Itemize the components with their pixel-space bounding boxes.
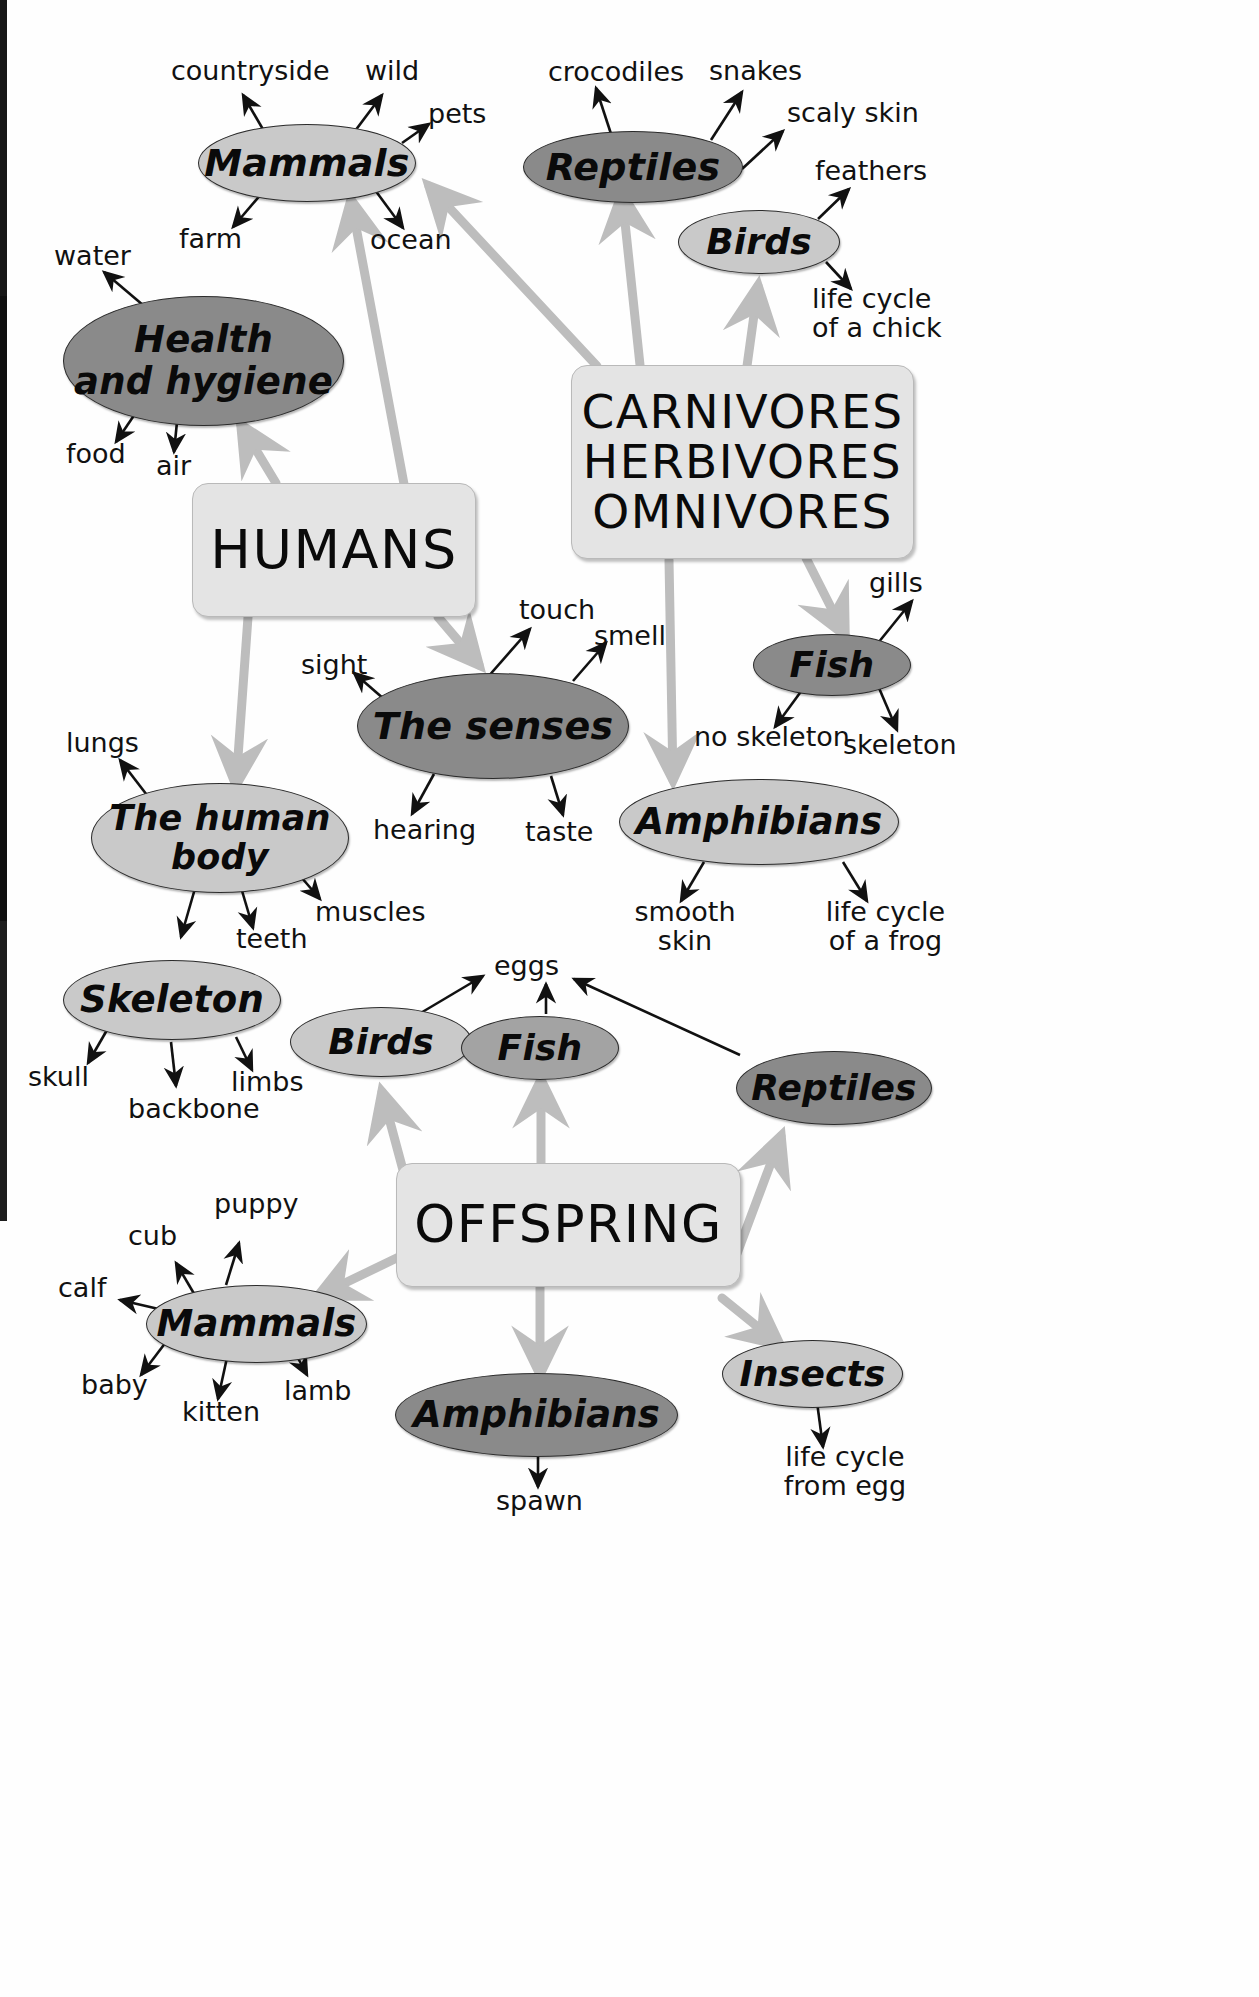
leaf-ocean: ocean	[370, 226, 452, 255]
node-birds-bottom[interactable]: Birds	[290, 1007, 472, 1077]
node-fish-top-label: Fish	[790, 647, 875, 684]
node-birds-bottom-label: Birds	[328, 1024, 434, 1061]
leaf-air: air	[156, 452, 191, 481]
page-edge-mark-lower	[0, 921, 7, 1221]
leaf-crocodiles: crocodiles	[548, 58, 684, 87]
leaf-pets: pets	[428, 100, 486, 129]
leaf-life-cycle-of-a-frog: life cycle of a frog	[818, 898, 953, 955]
node-the-senses-label: The senses	[373, 707, 613, 746]
hub-diets-line-omnivores: OMNIVORES	[592, 488, 893, 536]
node-human-body-line2: body	[171, 840, 269, 876]
node-birds-top[interactable]: Birds	[678, 210, 840, 274]
node-health-line1: Health	[134, 321, 273, 359]
hub-offspring[interactable]: OFFSPRING	[396, 1163, 741, 1287]
leaf-puppy: puppy	[214, 1190, 299, 1219]
leaf-lungs: lungs	[66, 729, 139, 758]
hub-humans[interactable]: HUMANS	[192, 483, 476, 617]
hub-humans-label: HUMANS	[210, 522, 457, 577]
leaf-lamb: lamb	[284, 1377, 352, 1406]
leaf-kitten: kitten	[182, 1398, 260, 1427]
leaf-baby: baby	[81, 1371, 148, 1400]
node-the-senses[interactable]: The senses	[357, 673, 629, 779]
leaf-backbone: backbone	[128, 1095, 260, 1124]
leaf-snakes: snakes	[709, 57, 802, 86]
leaf-smooth-skin-line1: smooth	[634, 896, 735, 927]
node-fish-bottom-label: Fish	[498, 1030, 583, 1067]
node-skeleton[interactable]: Skeleton	[63, 960, 281, 1040]
node-skeleton-label: Skeleton	[80, 981, 264, 1019]
leaf-food: food	[66, 440, 126, 469]
leaf-life-cycle-egg-line1: life cycle	[785, 1441, 904, 1472]
node-mammals-top-label: Mammals	[204, 144, 409, 183]
hub-diets-line-carnivores: CARNIVORES	[581, 388, 903, 436]
node-reptiles-bottom-label: Reptiles	[751, 1070, 916, 1107]
leaf-wild: wild	[365, 57, 419, 86]
leaf-life-cycle-frog-line1: life cycle	[826, 896, 945, 927]
leaf-smell: smell	[594, 622, 666, 651]
leaf-countryside: countryside	[171, 57, 330, 86]
concept-map-canvas: HUMANS CARNIVORES HERBIVORES OMNIVORES O…	[0, 0, 1259, 1997]
leaf-smooth-skin: smooth skin	[625, 898, 745, 955]
leaf-life-cycle-frog-line2: of a frog	[829, 925, 942, 956]
node-mammals-bottom-label: Mammals	[157, 1305, 357, 1343]
leaf-eggs: eggs	[494, 952, 559, 981]
leaf-water: water	[54, 242, 131, 271]
leaf-farm: farm	[179, 225, 242, 254]
leaf-teeth: teeth	[236, 925, 308, 954]
node-health-hygiene[interactable]: Health and hygiene	[63, 296, 344, 426]
leaf-taste: taste	[525, 818, 593, 847]
node-insects-bottom[interactable]: Insects	[722, 1340, 903, 1408]
node-reptiles-bottom[interactable]: Reptiles	[736, 1051, 932, 1125]
leaf-no-skeleton: no skeleton	[694, 723, 850, 752]
page-edge-mark-top	[0, 0, 7, 296]
node-amphibians-top-label: Amphibians	[635, 803, 882, 841]
leaf-feathers: feathers	[815, 157, 927, 186]
node-health-line2: and hygiene	[74, 363, 333, 401]
leaf-calf: calf	[58, 1274, 106, 1303]
node-reptiles-top[interactable]: Reptiles	[523, 131, 743, 203]
page-edge-mark-mid	[0, 296, 7, 921]
leaf-skull: skull	[28, 1063, 89, 1092]
leaf-smooth-skin-line2: skin	[658, 925, 712, 956]
node-amphibians-bottom-label: Amphibians	[413, 1396, 660, 1434]
leaf-skeleton: skeleton	[843, 731, 957, 760]
node-insects-bottom-label: Insects	[739, 1356, 885, 1393]
leaf-touch: touch	[519, 596, 595, 625]
node-birds-top-label: Birds	[706, 224, 812, 261]
leaf-life-cycle-chick-line1: life cycle	[812, 283, 931, 314]
leaf-gills: gills	[869, 569, 923, 598]
leaf-scaly-skin: scaly skin	[787, 99, 919, 128]
leaf-spawn: spawn	[496, 1487, 583, 1516]
hub-diets-line-herbivores: HERBIVORES	[583, 438, 902, 486]
leaf-cub: cub	[128, 1222, 177, 1251]
leaf-limbs: limbs	[231, 1068, 304, 1097]
node-amphibians-top[interactable]: Amphibians	[619, 779, 899, 865]
hub-offspring-label: OFFSPRING	[414, 1198, 722, 1251]
node-human-body[interactable]: The human body	[91, 783, 349, 893]
leaf-life-cycle-from-egg: life cycle from egg	[770, 1443, 920, 1500]
leaf-life-cycle-egg-line2: from egg	[784, 1470, 906, 1501]
leaf-hearing: hearing	[373, 816, 476, 845]
node-reptiles-top-label: Reptiles	[546, 148, 721, 187]
node-fish-bottom[interactable]: Fish	[461, 1016, 619, 1080]
node-fish-top[interactable]: Fish	[753, 634, 911, 696]
leaf-muscles: muscles	[315, 898, 426, 927]
leaf-sight: sight	[301, 651, 367, 680]
hub-diets[interactable]: CARNIVORES HERBIVORES OMNIVORES	[571, 365, 914, 559]
node-mammals-bottom[interactable]: Mammals	[146, 1285, 367, 1363]
node-amphibians-bottom[interactable]: Amphibians	[395, 1373, 678, 1457]
leaf-life-cycle-of-a-chick: life cycle of a chick	[812, 285, 942, 342]
node-mammals-top[interactable]: Mammals	[198, 124, 416, 202]
leaf-life-cycle-chick-line2: of a chick	[812, 312, 942, 343]
node-human-body-line1: The human	[109, 801, 330, 837]
